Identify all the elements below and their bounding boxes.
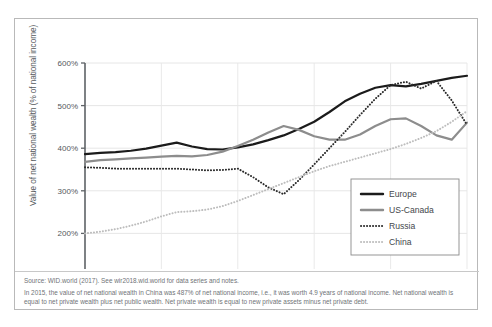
chart-legend: EuropeUS-CanadaRussiaChina	[351, 179, 459, 255]
legend-label-us-canada: US-Canada	[389, 205, 434, 215]
line-chart-svg: 100%200%300%400%500%600% 199019952000200…	[15, 19, 479, 269]
svg-text:600%: 600%	[58, 59, 78, 68]
svg-text:400%: 400%	[58, 144, 78, 153]
svg-text:500%: 500%	[58, 102, 78, 111]
svg-text:300%: 300%	[58, 187, 78, 196]
legend-label-china: China	[389, 237, 412, 247]
y-axis-title: Value of net national wealth (% of natio…	[29, 16, 38, 216]
svg-text:200%: 200%	[58, 229, 78, 238]
figure-caption: Source: WID.world (2017). See wir2018.wi…	[15, 271, 479, 310]
y-axis-ticks: 100%200%300%400%500%600%	[58, 59, 85, 269]
legend-label-europe: Europe	[389, 189, 417, 199]
caption-note: In 2015, the value of net national wealt…	[24, 289, 470, 306]
chart-area: Value of net national wealth (% of natio…	[15, 19, 479, 269]
caption-source: Source: WID.world (2017). See wir2018.wi…	[24, 277, 470, 285]
legend-label-russia: Russia	[389, 221, 415, 231]
figure-panel: Value of net national wealth (% of natio…	[14, 18, 478, 310]
